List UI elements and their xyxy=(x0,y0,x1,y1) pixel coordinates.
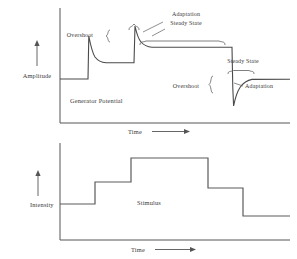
steady-state-1-label: Steady State xyxy=(170,20,202,26)
steady-state-1-leader xyxy=(152,29,165,36)
stimulus-trace xyxy=(60,158,290,216)
overshoot-2-label: Overshoot xyxy=(173,83,200,89)
generator-potential-inner-label: Generator Potential xyxy=(70,97,123,104)
overshoot-1-label: Overshoot xyxy=(67,32,94,38)
amplitude-arrow-head xyxy=(34,40,39,46)
top-x-axis-label-group: Time xyxy=(128,128,190,135)
stimulus-inner-label: Stimulus xyxy=(137,199,161,206)
adaptation-1-leader xyxy=(143,22,163,32)
top-y-axis-label-group: Amplitude xyxy=(23,40,52,79)
generator-potential-trace xyxy=(60,26,290,106)
bottom-time-arrow-head xyxy=(190,247,196,252)
adaptation-1-label: Adaptation xyxy=(172,11,200,17)
overshoot-1-brace xyxy=(106,30,110,42)
top-time-axis-label: Time xyxy=(128,128,142,135)
steady-state-2-brace xyxy=(228,71,254,75)
figure-canvas: Overshoot Adaptation Steady State Oversh… xyxy=(0,0,297,259)
adaptation-1-top-brace xyxy=(129,24,139,30)
figure-root: Overshoot Adaptation Steady State Oversh… xyxy=(0,0,297,259)
steady-state-1-brace xyxy=(140,41,225,45)
annotation-overshoot-1: Overshoot xyxy=(67,32,94,38)
adaptation-2-label: Adaptation xyxy=(245,83,273,89)
bottom-time-axis-label: Time xyxy=(131,246,145,253)
steady-state-2-label: Steady State xyxy=(227,58,259,64)
top-time-arrow-head xyxy=(184,129,190,134)
intensity-arrow-head xyxy=(35,170,40,176)
stimulus-panel: Intensity Stimulus Time xyxy=(30,143,290,253)
bottom-y-axis-label-group: Intensity xyxy=(30,170,54,208)
amplitude-axis-label: Amplitude xyxy=(23,72,52,79)
intensity-axis-label: Intensity xyxy=(30,201,54,208)
generator-potential-panel: Overshoot Adaptation Steady State Oversh… xyxy=(23,8,290,135)
overshoot-2-brace xyxy=(209,76,213,93)
adaptation-2-leader xyxy=(234,83,243,86)
bottom-x-axis-label-group: Time xyxy=(131,246,196,253)
